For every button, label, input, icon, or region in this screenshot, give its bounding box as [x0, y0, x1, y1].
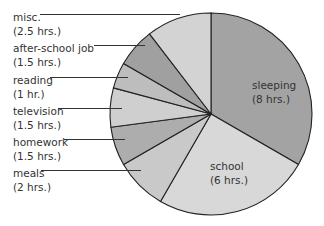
- slice-value-school: (6 hrs.): [210, 174, 248, 186]
- slice-value-sleeping: (8 hrs.): [252, 93, 290, 105]
- slice-label-television: television: [13, 105, 64, 117]
- slice-label-meals: meals: [13, 167, 45, 179]
- slice-label-sleeping: sleeping: [252, 79, 296, 91]
- slice-value-television: (1.5 hrs.): [13, 119, 61, 131]
- slice-label-reading: reading: [13, 74, 53, 86]
- pie-chart: sleeping (8 hrs.) school (6 hrs.) misc. …: [0, 0, 324, 226]
- slice-value-meals: (2 hrs.): [13, 181, 51, 193]
- slice-value-homework: (1.5 hrs.): [13, 150, 61, 162]
- slice-value-reading: (1 hr.): [13, 88, 45, 100]
- slice-label-misc: misc.: [13, 11, 41, 23]
- slice-label-homework: homework: [13, 136, 69, 148]
- slice-label-school: school: [210, 160, 244, 172]
- slice-label-after-school-job: after-school job: [13, 42, 94, 54]
- slice-value-after-school-job: (1.5 hrs.): [13, 56, 61, 68]
- slice-value-misc: (2.5 hrs.): [13, 25, 61, 37]
